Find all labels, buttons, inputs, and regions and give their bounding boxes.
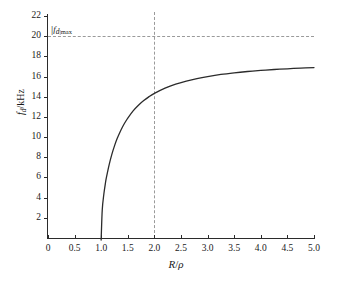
x-tick-mark — [48, 235, 49, 239]
x-tick-label: 4.0 — [246, 243, 276, 253]
x-tick-mark — [181, 235, 182, 239]
y-tick-mark — [44, 137, 48, 138]
x-tick-label: 1.0 — [86, 243, 116, 253]
y-tick-label: 4 — [15, 193, 41, 203]
y-tick-mark — [44, 198, 48, 199]
x-tick-label: 5.0 — [299, 243, 329, 253]
x-tick-label: 4.5 — [272, 243, 302, 253]
fd-max-annotation-label: |fd|max — [51, 25, 72, 36]
x-axis-denominator: ρ — [178, 258, 183, 270]
x-tick-mark — [234, 235, 235, 239]
y-axis-title: fd/kHz — [15, 67, 29, 137]
x-tick-label: 0 — [33, 243, 63, 253]
fd-max-suffix: |max — [59, 28, 72, 35]
x-tick-label: 3.0 — [193, 243, 223, 253]
x-tick-mark — [261, 235, 262, 239]
y-tick-label: 6 — [15, 172, 41, 182]
y-tick-mark — [44, 16, 48, 17]
y-axis-subscript: d — [19, 108, 28, 112]
x-tick-label: 2.5 — [166, 243, 196, 253]
x-tick-mark — [154, 235, 155, 239]
x-tick-mark — [314, 235, 315, 239]
y-tick-label: 22 — [15, 11, 41, 21]
x-tick-label: 1.5 — [113, 243, 143, 253]
x-tick-label: 0.5 — [60, 243, 90, 253]
y-tick-mark — [44, 56, 48, 57]
y-tick-label: 2 — [15, 213, 41, 223]
x-tick-mark — [208, 235, 209, 239]
chart-figure: 246810121416182022 00.51.01.52.02.53.03.… — [0, 0, 352, 287]
x-tick-mark — [75, 235, 76, 239]
x-tick-mark — [101, 235, 102, 239]
y-tick-mark — [44, 97, 48, 98]
y-tick-label: 8 — [15, 152, 41, 162]
x-axis-title: R/ρ — [0, 258, 352, 270]
x-tick-mark — [287, 235, 288, 239]
y-tick-label: 20 — [15, 31, 41, 41]
y-tick-mark — [44, 36, 48, 37]
y-tick-mark — [44, 157, 48, 158]
y-tick-mark — [44, 77, 48, 78]
y-tick-mark — [44, 218, 48, 219]
y-tick-label: 18 — [15, 51, 41, 61]
x-tick-mark — [128, 235, 129, 239]
y-axis-symbol: f — [15, 112, 26, 115]
x-tick-label: 3.5 — [219, 243, 249, 253]
y-tick-mark — [44, 177, 48, 178]
y-axis-unit: /kHz — [15, 89, 26, 108]
y-tick-mark — [44, 117, 48, 118]
x-tick-label: 2.0 — [139, 243, 169, 253]
